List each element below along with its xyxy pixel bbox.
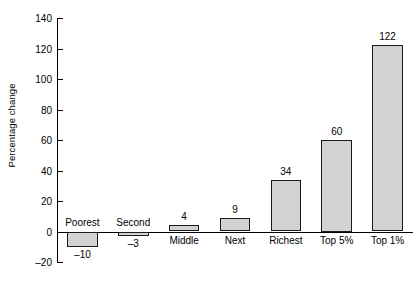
x-category-label: Richest xyxy=(260,235,311,246)
bar xyxy=(220,218,251,232)
x-category-label: Top 1% xyxy=(362,235,413,246)
plot-area: –20020406080100120140 –10Poorest–3Second… xyxy=(57,18,413,262)
y-tick-mark xyxy=(57,171,63,172)
bar-chart: Percentage change –20020406080100120140 … xyxy=(0,0,418,282)
bar xyxy=(271,180,302,232)
bar xyxy=(321,140,352,232)
y-tick-label: 100 xyxy=(35,74,52,85)
y-tick-mark xyxy=(57,262,63,263)
bar xyxy=(372,45,403,231)
y-tick-mark xyxy=(57,110,63,111)
x-category-label: Poorest xyxy=(57,217,108,228)
bar-value-label: –10 xyxy=(57,249,108,260)
y-tick-label: 0 xyxy=(46,226,52,237)
y-axis-title-text: Percentage change xyxy=(6,83,17,167)
bar-value-label: 122 xyxy=(362,31,413,42)
y-tick-mark xyxy=(57,49,63,50)
x-axis-zero-line xyxy=(57,232,413,233)
x-category-label: Second xyxy=(108,217,159,228)
y-tick-label: 140 xyxy=(35,13,52,24)
y-tick-label: 60 xyxy=(41,135,52,146)
x-category-label: Middle xyxy=(159,235,210,246)
y-tick-mark xyxy=(57,232,63,233)
bar-value-label: 4 xyxy=(159,211,210,222)
y-tick-mark xyxy=(57,201,63,202)
bar xyxy=(67,232,98,247)
y-tick-label: 120 xyxy=(35,43,52,54)
y-tick-label: –20 xyxy=(35,257,52,268)
bar xyxy=(169,225,200,231)
bar xyxy=(118,232,149,237)
y-axis-title: Percentage change xyxy=(2,0,20,250)
y-tick-label: 20 xyxy=(41,196,52,207)
y-tick-mark xyxy=(57,79,63,80)
y-tick-mark xyxy=(57,140,63,141)
bar-value-label: –3 xyxy=(108,238,159,249)
x-category-label: Top 5% xyxy=(311,235,362,246)
y-tick-mark xyxy=(57,18,63,19)
bar-value-label: 9 xyxy=(210,204,261,215)
bar-value-label: 60 xyxy=(311,126,362,137)
x-category-label: Next xyxy=(210,235,261,246)
y-tick-label: 40 xyxy=(41,165,52,176)
y-tick-label: 80 xyxy=(41,104,52,115)
bar-value-label: 34 xyxy=(260,166,311,177)
